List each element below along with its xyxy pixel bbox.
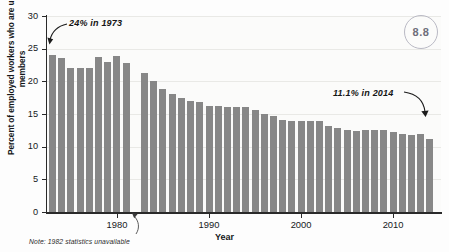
y-axis-tick-label: 15 — [8, 109, 38, 119]
y-axis-tick-label: 20 — [8, 76, 38, 86]
bar — [390, 132, 397, 212]
x-axis-tick-label: 2010 — [373, 219, 413, 230]
bar — [159, 89, 166, 212]
bar — [86, 68, 93, 212]
bar — [233, 107, 240, 212]
bar — [215, 106, 222, 212]
x-axis-tick — [301, 213, 302, 218]
y-axis-tick — [42, 179, 47, 180]
y-axis-tick — [42, 81, 47, 82]
y-axis-tick — [42, 49, 47, 50]
bar — [77, 68, 84, 212]
y-axis-tick-label: 5 — [8, 174, 38, 184]
bar — [261, 114, 268, 212]
bar — [95, 57, 102, 212]
bar — [399, 134, 406, 212]
bar — [288, 121, 295, 212]
bar — [380, 130, 387, 212]
bar — [187, 101, 194, 212]
bar — [371, 130, 378, 212]
y-axis-tick-label: 30 — [8, 11, 38, 21]
x-axis-tick-label: 1990 — [189, 219, 229, 230]
bar — [196, 102, 203, 212]
bar — [325, 126, 332, 212]
x-axis-tick — [393, 213, 394, 218]
y-axis-tick — [42, 147, 47, 148]
bar — [279, 120, 286, 212]
bar — [242, 107, 249, 212]
bar — [169, 94, 176, 212]
annotation-2014: 11.1% in 2014 — [333, 88, 393, 98]
bar — [417, 134, 424, 212]
bar — [150, 81, 157, 212]
bar — [113, 56, 120, 212]
x-axis-tick-label: 1980 — [97, 219, 137, 230]
y-axis-tick — [42, 114, 47, 115]
bar — [270, 116, 277, 212]
footnote-note: Note: 1982 statistics unavailable — [29, 238, 130, 245]
annotation-1973: 24% in 1973 — [69, 18, 122, 28]
bar — [426, 139, 433, 212]
bar — [334, 128, 341, 212]
bar — [58, 58, 65, 212]
bar — [224, 107, 231, 212]
x-axis-tick — [117, 213, 118, 218]
bar — [178, 98, 185, 212]
bar — [141, 73, 148, 212]
x-axis-tick-label: 2000 — [281, 219, 321, 230]
y-axis-tick — [42, 16, 47, 17]
bar — [252, 110, 259, 212]
y-axis-tick — [42, 212, 47, 213]
x-axis-line — [46, 212, 442, 214]
figure-number-badge: 8.8 — [404, 15, 438, 49]
bar — [316, 121, 323, 212]
bar — [123, 63, 130, 212]
bar — [206, 106, 213, 212]
y-axis-tick-label: 25 — [8, 43, 38, 53]
bar — [344, 130, 351, 212]
bar — [353, 131, 360, 212]
y-axis-tick-label: 10 — [8, 141, 38, 151]
bar — [49, 55, 56, 212]
bar — [104, 62, 111, 212]
bar — [298, 121, 305, 212]
bar-series — [47, 16, 441, 212]
bar — [67, 68, 74, 212]
y-axis-tick-label: 0 — [8, 207, 38, 217]
x-axis-tick — [209, 213, 210, 218]
figure-union-membership-chart: Percent of employed workers who are unio… — [0, 0, 449, 252]
bar — [362, 130, 369, 212]
bar — [408, 135, 415, 212]
bar — [307, 121, 314, 212]
